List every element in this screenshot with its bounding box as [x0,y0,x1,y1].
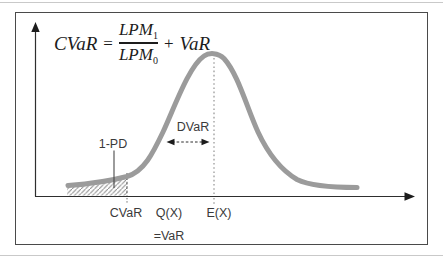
x-axis-label-cvar: CVaR [110,206,142,220]
x-axis-arrowhead-icon [405,192,416,200]
formula-equals-sign: = [103,34,113,54]
dvar-label: DVaR [177,120,209,134]
x-axis-label-equals-var: =VaR [154,229,185,243]
density-curve [68,54,357,188]
formula-denominator: LPM0 [119,46,158,66]
formula-fraction: LPM1 LPM0 [119,21,158,66]
dvar-arrowhead-right-icon [202,139,210,146]
formula-addend: VaR [179,33,210,55]
formula-lhs: CVaR [54,33,97,55]
figure-page: 1-PD DVaR CVaR Q(X) E(X) =VaR CVaR = LPM… [0,0,443,262]
y-axis-arrowhead-icon [31,22,39,32]
cvar-formula: CVaR = LPM1 LPM0 + VaR [54,21,210,66]
formula-numerator-subscript: 1 [153,30,158,41]
formula-numerator-base: LPM [119,20,153,39]
x-axis-label-expected-value: E(X) [207,206,232,220]
formula-numerator: LPM1 [119,21,158,41]
formula-plus-sign: + [164,34,174,54]
formula-fraction-bar [119,42,158,43]
formula-denominator-subscript: 0 [153,55,158,66]
tail-probability-label: 1-PD [99,137,127,151]
formula-denominator-base: LPM [119,45,153,64]
dvar-arrowhead-left-icon [167,139,175,146]
x-axis-label-quantile: Q(X) [156,206,182,220]
